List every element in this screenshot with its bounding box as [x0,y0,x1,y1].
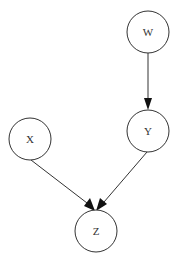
arrowhead-icon [84,198,95,211]
node-x-label: X [26,133,34,145]
edge-y-to-z [96,152,147,211]
edge-line-y-z [104,152,147,202]
edge-x-to-z [31,160,95,211]
node-y[interactable]: Y [127,110,169,152]
causal-graph-diagram: W X Y Z [0,0,179,263]
edge-w-to-y [144,53,152,110]
node-x[interactable]: X [9,118,51,160]
node-z[interactable]: Z [75,210,117,252]
node-z-label: Z [93,225,100,237]
node-w-label: W [143,26,154,38]
node-w[interactable]: W [127,11,169,53]
edge-line-x-z [31,160,87,203]
arrowhead-icon [144,98,152,110]
node-y-label: Y [144,125,152,137]
